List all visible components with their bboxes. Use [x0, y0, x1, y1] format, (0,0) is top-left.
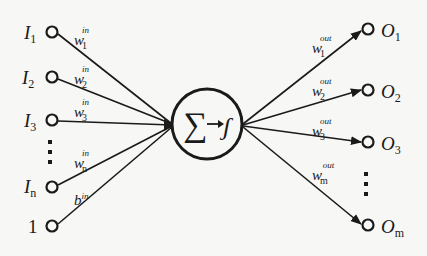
output-node-1: [363, 24, 374, 35]
edge-output-2: [243, 90, 361, 125]
edge-input-3: [58, 121, 172, 125]
input-node-3: [47, 115, 58, 126]
output-node-m: [363, 220, 374, 231]
input-label-2: I2: [21, 67, 34, 91]
input-label-3: I3: [23, 110, 36, 134]
input-label-n: In: [23, 176, 36, 200]
input-ellipsis-icon: [48, 140, 52, 164]
output-label-1: O1: [381, 20, 401, 44]
output-label-2: O2: [381, 81, 401, 105]
bias-input-label: 1: [28, 216, 38, 237]
weight-out-1: w1out: [312, 33, 332, 59]
neuron: ∑ ʃ: [172, 89, 242, 159]
output-node-3: [363, 137, 374, 148]
weight-in-3: w3in: [74, 97, 90, 123]
edge-output-1: [243, 31, 361, 124]
bias-node: [47, 221, 58, 232]
weight-out-2: w2out: [312, 76, 332, 102]
sum-symbol: ∑: [183, 106, 207, 144]
weight-in-1: w1in: [74, 25, 90, 51]
output-nodes: [363, 24, 374, 231]
output-weights: w1out w2out w3out wmout: [312, 33, 335, 186]
output-ellipsis-icon: [364, 172, 368, 196]
input-nodes: [47, 27, 58, 232]
weight-in-2: w2in: [74, 64, 90, 90]
bias-weight: bin: [74, 191, 89, 208]
input-node-1: [47, 27, 58, 38]
input-node-2: [47, 72, 58, 83]
output-label-m: Om: [381, 216, 405, 240]
edge-output-3: [243, 126, 361, 142]
input-node-n: [47, 182, 58, 193]
neuron-diagram: ∑ ʃ I1 I2 I3 In 1 w1in w2in w3in wnin bi…: [0, 0, 427, 256]
output-label-3: O3: [381, 133, 401, 157]
weight-out-m: wmout: [312, 160, 335, 186]
input-label-1: I1: [23, 22, 36, 46]
output-edges: [243, 31, 361, 224]
edge-output-m: [243, 127, 361, 224]
output-node-2: [363, 85, 374, 96]
